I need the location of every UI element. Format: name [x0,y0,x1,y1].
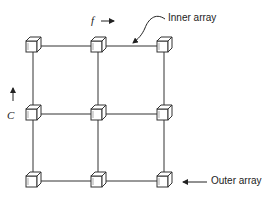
cube-node [26,172,41,187]
cube-node [91,172,106,187]
cube-nodes [26,37,172,187]
outer-array-label: Outer array [211,176,262,186]
cube-node [157,37,172,52]
cube-node [91,37,106,52]
cube-node [91,105,106,120]
array-diagram [0,0,269,198]
cube-node [26,37,41,52]
cube-node [157,172,172,187]
c-label: C [7,110,14,121]
inner-array-label: Inner array [168,13,216,23]
f-label: f [91,15,94,26]
cube-node [26,105,41,120]
cube-node [157,105,172,120]
